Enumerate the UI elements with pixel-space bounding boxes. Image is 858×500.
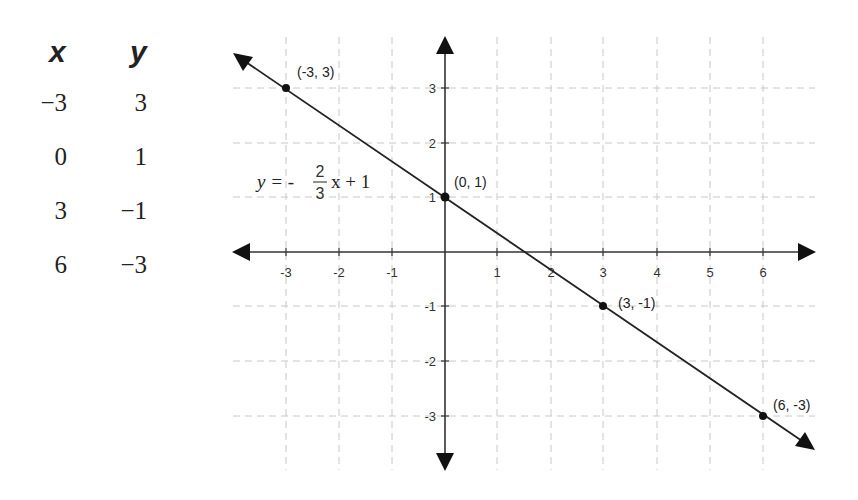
coordinate-plane: -3 -2 -1 1 2 3 4 5 6 3 2 1 -1 -2 -3 (-3,… (0, 0, 858, 500)
svg-text:y = -: y = - (255, 171, 294, 192)
svg-text:5: 5 (706, 265, 713, 280)
svg-text:-1: -1 (424, 299, 436, 314)
svg-text:x + 1: x + 1 (331, 171, 370, 192)
point-label: (6, -3) (773, 397, 810, 413)
point-label: (3, -1) (618, 295, 655, 311)
svg-text:1: 1 (493, 265, 500, 280)
svg-text:2: 2 (429, 136, 436, 151)
svg-text:-3: -3 (280, 265, 292, 280)
svg-text:3: 3 (316, 185, 325, 202)
y-axis-down-arrow-icon (436, 453, 454, 471)
svg-text:-2: -2 (333, 265, 345, 280)
svg-text:1: 1 (429, 190, 436, 205)
svg-text:-2: -2 (424, 354, 436, 369)
x-axis-right-arrow-icon (798, 243, 816, 261)
point-label: (-3, 3) (297, 64, 334, 80)
svg-text:-1: -1 (386, 265, 398, 280)
svg-text:6: 6 (759, 265, 766, 280)
x-axis-left-arrow-icon (232, 243, 250, 261)
grid (233, 37, 815, 470)
svg-text:3: 3 (599, 265, 606, 280)
line-upper-left-arrow-icon (233, 53, 253, 71)
svg-text:2: 2 (316, 163, 325, 180)
svg-text:-3: -3 (424, 409, 436, 424)
x-tick-labels: -3 -2 -1 1 2 3 4 5 6 (280, 265, 766, 280)
svg-text:3: 3 (429, 81, 436, 96)
y-axis-up-arrow-icon (436, 36, 454, 54)
equation-label: y = - 2 3 x + 1 (255, 163, 370, 202)
line-lower-right-arrow-icon (795, 432, 815, 450)
svg-text:4: 4 (653, 265, 660, 280)
point-label: (0, 1) (454, 174, 487, 190)
